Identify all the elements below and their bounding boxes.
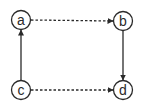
edge-a-to-b <box>31 20 113 21</box>
node-b-label: b <box>119 13 127 29</box>
diagram-canvas: a b c d <box>0 0 144 108</box>
node-a-label: a <box>17 12 25 28</box>
node-d: d <box>114 81 133 100</box>
node-c-label: c <box>18 82 25 98</box>
node-d-label: d <box>119 82 127 98</box>
node-b: b <box>114 12 133 31</box>
node-c: c <box>12 81 31 100</box>
node-a: a <box>12 11 31 30</box>
